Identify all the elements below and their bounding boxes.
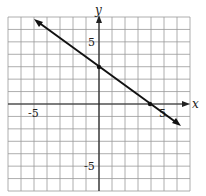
y-tick-label-pos5: 5 bbox=[88, 36, 95, 49]
coordinate-plane: x y -5 5 5 -5 bbox=[0, 0, 206, 196]
x-tick-label-neg5: -5 bbox=[28, 107, 39, 120]
x-intercept-point bbox=[148, 102, 152, 106]
y-axis bbox=[96, 15, 102, 191]
x-axis-label: x bbox=[192, 97, 199, 111]
y-tick-label-neg5: -5 bbox=[84, 160, 95, 173]
x-axis-arrow-icon bbox=[182, 101, 190, 107]
plotted-line bbox=[34, 19, 181, 126]
y-intercept-point bbox=[97, 65, 101, 69]
y-axis-label: y bbox=[94, 3, 102, 17]
